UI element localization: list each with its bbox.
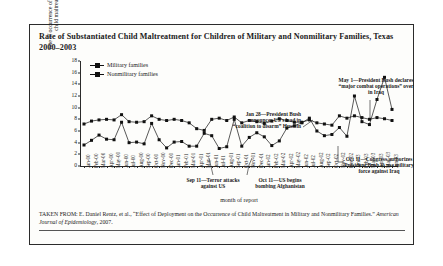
legend: Military families Nonmilitary families [90, 61, 158, 79]
x-tick-mark [257, 166, 258, 168]
y-tick-label: 14 [71, 82, 77, 88]
data-point [180, 140, 183, 143]
data-point [135, 141, 138, 144]
data-point [360, 116, 363, 119]
data-point [218, 117, 221, 120]
annotation-sep11: Sep 11—Terror attacks against US [178, 177, 248, 189]
data-point [225, 119, 228, 122]
data-point [338, 114, 341, 117]
data-point [165, 146, 168, 149]
data-point [248, 136, 251, 139]
data-point [323, 123, 326, 126]
source-divider [39, 230, 405, 231]
annotation-may1: May 1—President Bush declares “major com… [337, 77, 415, 96]
data-point [195, 145, 198, 148]
data-point [195, 127, 198, 130]
x-tick-mark [302, 166, 303, 168]
data-point [158, 138, 161, 141]
x-tick-mark [174, 166, 175, 168]
annotation-jan28: Jan 28—President Bush announces US's lea… [229, 111, 301, 130]
data-point [203, 129, 206, 132]
data-point [203, 132, 206, 135]
data-point [173, 118, 176, 121]
data-point [375, 98, 378, 101]
data-point [113, 118, 116, 121]
x-tick-mark [324, 166, 325, 168]
data-point [188, 145, 191, 148]
x-tick-mark [294, 166, 295, 168]
x-tick-mark [114, 166, 115, 168]
x-tick-mark [279, 166, 280, 168]
data-point [143, 142, 146, 145]
x-tick-mark [129, 166, 130, 168]
data-point [98, 134, 101, 137]
data-point [143, 120, 146, 123]
data-point [330, 133, 333, 136]
data-point [345, 117, 348, 120]
x-tick-mark [234, 166, 235, 168]
data-point [128, 120, 131, 123]
data-point [308, 118, 311, 121]
data-point [255, 131, 258, 134]
data-point [150, 122, 153, 125]
data-point [391, 108, 394, 111]
data-point [90, 139, 93, 142]
data-point [368, 123, 371, 126]
data-point [353, 114, 356, 117]
data-point [338, 126, 341, 129]
data-point [383, 117, 386, 120]
legend-label-nonmilitary: Nonmilitary families [107, 70, 158, 78]
data-point [188, 121, 191, 124]
data-point [90, 120, 93, 123]
data-point [105, 118, 108, 121]
chart-title: Rate of Substantiated Child Maltreatment… [39, 31, 407, 53]
x-tick-mark [137, 166, 138, 168]
data-point [113, 138, 116, 141]
x-tick-mark [99, 166, 100, 168]
source-line2-post: , 2007. [97, 219, 113, 225]
data-point [263, 135, 266, 138]
x-tick-mark [167, 166, 168, 168]
data-point [345, 135, 348, 138]
y-axis-label-line2: child maltreatment [53, 0, 59, 61]
data-point [173, 141, 176, 144]
data-point [218, 147, 221, 150]
x-tick-mark [107, 166, 108, 168]
data-point [315, 130, 318, 133]
data-point [165, 119, 168, 122]
figure-panel: Rate of Substantiated Child Maltreatment… [29, 24, 414, 245]
data-point [240, 145, 243, 148]
data-point [210, 134, 213, 137]
x-tick-mark [144, 166, 145, 168]
x-tick-mark [317, 166, 318, 168]
x-tick-mark [242, 166, 243, 168]
y-tick-label: 12 [71, 93, 77, 99]
y-axis-label: rate of occurrence of substantiated chil… [47, 0, 59, 61]
data-point [323, 134, 326, 137]
legend-marker-icon [90, 71, 104, 77]
legend-marker-icon [90, 62, 104, 68]
source-line2-pre: Nonmilitary Families.” [321, 211, 376, 217]
source-note: TAKEN FROM: E. Daniel Rentz, et al., “Ef… [39, 211, 405, 226]
x-tick-mark [212, 166, 213, 168]
data-point [330, 124, 333, 127]
data-point [158, 118, 161, 121]
x-tick-mark [332, 166, 333, 168]
data-point [83, 144, 86, 147]
x-tick-mark [272, 166, 273, 168]
data-point [278, 139, 281, 142]
data-point [210, 118, 213, 121]
x-tick-mark [264, 166, 265, 168]
x-tick-mark [339, 166, 340, 168]
data-point [180, 119, 183, 122]
x-tick-mark [92, 166, 93, 168]
data-point [105, 138, 108, 141]
y-tick-label: 18 [71, 58, 77, 64]
source-line1: TAKEN FROM: E. Daniel Rentz, et al., “Ef… [39, 211, 320, 217]
data-point [120, 121, 123, 124]
x-tick-mark [287, 166, 288, 168]
annotation-oct11-iraq: Oct 11—Congress authorizes President Bus… [342, 156, 416, 175]
legend-item-military: Military families [90, 61, 158, 69]
y-tick-label: 16 [71, 70, 77, 76]
x-tick-mark [197, 166, 198, 168]
